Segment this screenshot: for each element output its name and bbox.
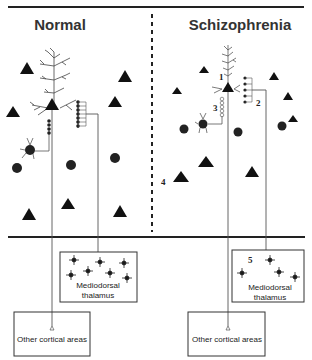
right-interneurons bbox=[180, 122, 287, 137]
annotation-3: 3 bbox=[213, 103, 218, 113]
annotation-4: 4 bbox=[161, 177, 166, 187]
left-thalamus-box: Mediodorsal thalamus bbox=[60, 252, 137, 302]
right-thalamus-box: 5 Mediodorsal thalamus bbox=[232, 250, 304, 302]
right-cortical-areas-box: Other cortical areas bbox=[188, 312, 265, 356]
right-thalamus-label-line1: Mediodorsal bbox=[248, 283, 292, 292]
right-thalamic-boutons bbox=[243, 76, 266, 250]
right-cortical-areas-label: Other cortical areas bbox=[192, 335, 262, 344]
left-thalamus-label-line2: thalamus bbox=[82, 291, 114, 300]
left-cortical-areas-label: Other cortical areas bbox=[17, 335, 87, 344]
annotation-1: 1 bbox=[219, 72, 224, 82]
left-pyramidal-triangles bbox=[6, 62, 132, 220]
diagram-canvas: Normal Schizophrenia bbox=[0, 0, 312, 360]
right-thalamus-label-line2: thalamus bbox=[254, 293, 286, 302]
right-pyramidal-neuron-soma bbox=[222, 82, 234, 92]
left-interneuron-chandelier bbox=[20, 119, 51, 159]
left-thalamic-boutons bbox=[76, 100, 98, 252]
annotation-5: 5 bbox=[248, 255, 253, 265]
right-axon-terminal-icon bbox=[226, 326, 230, 330]
title-schizophrenia: Schizophrenia bbox=[189, 16, 292, 33]
left-interneurons bbox=[12, 153, 120, 173]
title-normal: Normal bbox=[34, 16, 86, 33]
left-axon-terminal-icon bbox=[50, 326, 54, 330]
left-thalamus-label-line1: Mediodorsal bbox=[76, 281, 120, 290]
annotation-2: 2 bbox=[256, 98, 261, 108]
right-interneuron-chandelier bbox=[195, 97, 224, 133]
left-pyramidal-neuron-soma bbox=[45, 98, 59, 110]
